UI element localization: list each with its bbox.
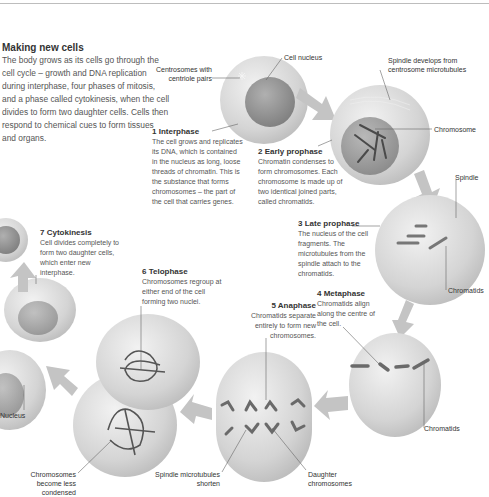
label-spindle-develops: Spindle develops from centrosome microtu… <box>388 56 473 74</box>
cell-anaphase <box>216 352 312 482</box>
cell-telophase <box>73 314 200 477</box>
intro-title: Making new cells <box>2 42 84 53</box>
stage-description: Chromatids separate entirely to form new… <box>236 311 316 341</box>
stage-description: Chromatin condenses to form chromosomes.… <box>258 157 344 207</box>
stage-title: Telophase <box>149 267 188 276</box>
stage-number: 5 <box>271 301 275 310</box>
arrow-icon <box>180 394 212 424</box>
cell-early-prophase <box>330 85 430 185</box>
label-chromatids-metaphase: Chromatids <box>424 424 460 433</box>
cell-nucleus-shape <box>245 77 295 127</box>
stage-early-prophase: 2 Early prophase Chromatin condenses to … <box>258 146 344 207</box>
label-chromatids-late-prophase: Chromatids <box>448 286 484 295</box>
stage-number: 1 <box>152 127 156 136</box>
stage-description: Cell divides completely to form two daug… <box>40 238 122 278</box>
stage-cytokinesis: 7 Cytokinesis Cell divides completely to… <box>40 227 122 278</box>
label-chromosomes-less-condensed: Chromosomes become less condensed <box>6 470 76 497</box>
arrow-icon <box>46 366 78 396</box>
stage-anaphase: 5 Anaphase Chromatids separate entirely … <box>236 300 316 341</box>
label-daughter-chromosomes: Daughter chromosomes <box>308 470 358 488</box>
label-centrosomes: Centrosomes with centriole pairs <box>150 65 212 83</box>
label-chromosome: Chromosome <box>434 125 476 134</box>
stage-metaphase: 4 Metaphase Chromatids align along the c… <box>317 288 379 329</box>
arrow-icon <box>392 300 414 338</box>
stage-title: Interphase <box>159 127 199 136</box>
label-spindle-microtubules-shorten: Spindle microtubules shorten <box>150 470 220 488</box>
stage-description: The cell grows and replicates its DNA, w… <box>152 137 244 207</box>
stage-number: 2 <box>258 147 262 156</box>
stage-telophase: 6 Telophase Chromosomes regroup at eithe… <box>142 266 224 307</box>
stage-description: Chromosomes regroup at either end of the… <box>142 277 224 307</box>
stage-title: Anaphase <box>278 301 316 310</box>
cell-metaphase <box>349 333 441 437</box>
stage-title: Early prophase <box>265 147 323 156</box>
stage-late-prophase: 3 Late prophase The nucleus of the cell … <box>298 218 382 279</box>
stage-number: 3 <box>298 219 302 228</box>
stage-description: Chromatids align along the centre of the… <box>317 299 379 329</box>
stage-number: 4 <box>317 289 321 298</box>
stage-interphase: 1 Interphase The cell grows and replicat… <box>152 126 244 207</box>
stage-title: Cytokinesis <box>47 228 92 237</box>
stage-description: The nucleus of the cell fragments. The m… <box>298 229 382 279</box>
intro-text: The body grows as its cells go through t… <box>2 54 170 145</box>
centrosome-icon <box>238 72 246 80</box>
label-nucleus: Nucleus <box>0 411 25 420</box>
label-spindle: Spindle <box>455 173 478 182</box>
stage-number: 6 <box>142 267 146 276</box>
stage-title: Late prophase <box>305 219 360 228</box>
arrow-icon <box>314 390 348 420</box>
stage-title: Metaphase <box>324 289 365 298</box>
label-cell-nucleus: Cell nucleus <box>284 53 322 62</box>
stage-number: 7 <box>40 228 44 237</box>
